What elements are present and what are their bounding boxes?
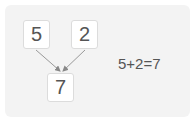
number-box-5: 5 bbox=[23, 20, 50, 49]
arrow-right-icon bbox=[63, 50, 85, 71]
result-value: 7 bbox=[55, 76, 66, 99]
arrows bbox=[0, 0, 195, 123]
equation-text: 5+2=7 bbox=[118, 55, 161, 72]
result-box-7: 7 bbox=[47, 73, 74, 102]
number-value: 2 bbox=[79, 23, 90, 46]
number-value: 5 bbox=[31, 23, 42, 46]
arrow-left-icon bbox=[36, 50, 60, 71]
number-box-2: 2 bbox=[71, 20, 98, 49]
